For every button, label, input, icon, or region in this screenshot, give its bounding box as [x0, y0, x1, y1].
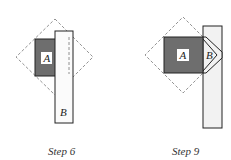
step6-label-a: A	[43, 52, 51, 64]
step9-label-a: A	[179, 49, 187, 61]
step9-label-b: B	[206, 49, 213, 61]
step9-caption: Step 9	[172, 145, 200, 157]
step6-panel: A B Step 6	[16, 19, 93, 157]
step6-caption: Step 6	[48, 145, 76, 157]
step6-label-b: B	[60, 106, 67, 118]
step9-panel: A B Step 9	[145, 17, 222, 157]
diagram-canvas: A B Step 6 A B Step 9	[0, 0, 231, 160]
